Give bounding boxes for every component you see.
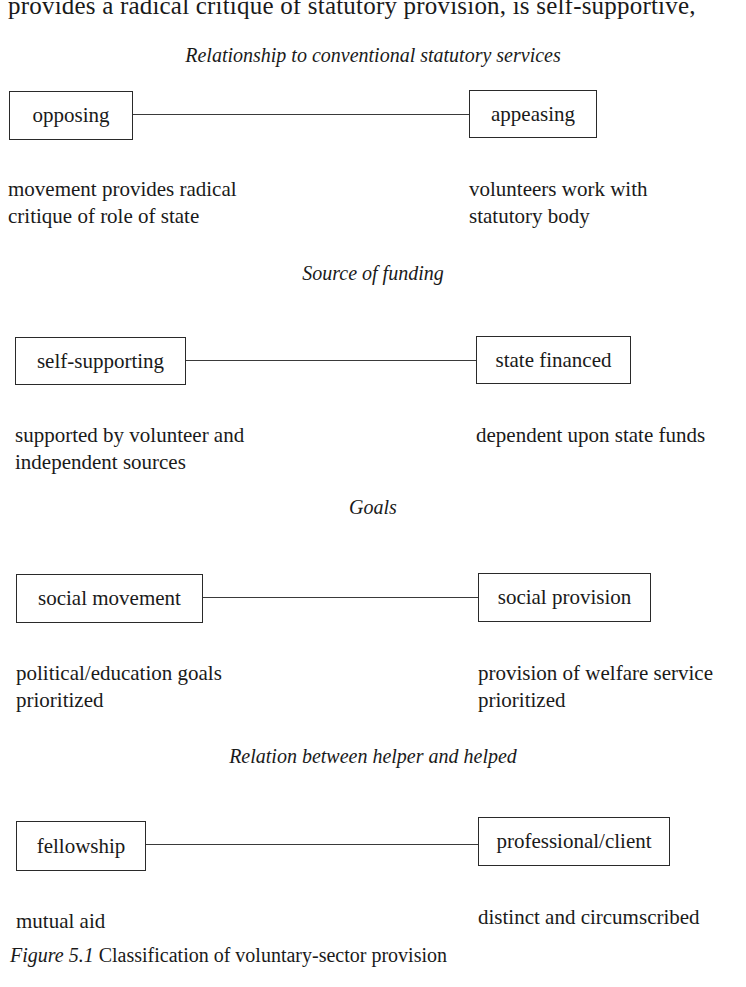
box-label: opposing xyxy=(32,103,109,128)
desc-line: provision of welfare service xyxy=(478,660,713,687)
desc-line: critique of role of state xyxy=(8,203,237,230)
desc-line: independent sources xyxy=(15,449,244,476)
caption-helper-relation: Relation between helper and helped xyxy=(0,745,746,768)
desc-left: movement provides radical critique of ro… xyxy=(8,176,237,230)
box-label: social provision xyxy=(498,585,632,610)
box-state-financed: state financed xyxy=(476,336,631,384)
desc-right: provision of welfare service prioritized xyxy=(478,660,713,714)
desc-line: volunteers work with xyxy=(469,176,647,203)
caption-goals: Goals xyxy=(0,496,746,519)
connector-line xyxy=(186,360,476,361)
desc-right: distinct and circumscribed xyxy=(478,904,700,931)
desc-line: dependent upon state funds xyxy=(476,422,705,449)
desc-line: prioritized xyxy=(16,687,222,714)
desc-line: distinct and circumscribed xyxy=(478,904,700,931)
desc-left: mutual aid xyxy=(16,908,105,935)
box-label: state financed xyxy=(495,348,611,373)
box-label: fellowship xyxy=(37,834,126,859)
box-social-provision: social provision xyxy=(478,573,651,622)
figure-title: Classification of voluntary-sector provi… xyxy=(99,944,447,966)
desc-right: dependent upon state funds xyxy=(476,422,705,449)
desc-left: political/education goals prioritized xyxy=(16,660,222,714)
box-label: appeasing xyxy=(491,102,575,127)
box-social-movement: social movement xyxy=(16,574,203,623)
desc-line: mutual aid xyxy=(16,908,105,935)
connector-line xyxy=(133,114,469,115)
connector-line xyxy=(146,844,478,845)
box-label: social movement xyxy=(38,586,181,611)
desc-line: movement provides radical xyxy=(8,176,237,203)
box-opposing: opposing xyxy=(9,91,133,140)
desc-right: volunteers work with statutory body xyxy=(469,176,647,230)
box-label: professional/client xyxy=(496,829,651,854)
box-appeasing: appeasing xyxy=(469,90,597,138)
box-label: self-supporting xyxy=(37,349,164,374)
box-fellowship: fellowship xyxy=(16,821,146,871)
desc-line: prioritized xyxy=(478,687,713,714)
caption-relationship: Relationship to conventional statutory s… xyxy=(0,44,746,67)
figure-caption: Figure 5.1 Classification of voluntary-s… xyxy=(10,944,447,967)
desc-line: statutory body xyxy=(469,203,647,230)
connector-line xyxy=(203,597,478,598)
desc-line: supported by volunteer and xyxy=(15,422,244,449)
body-text-line: provides a radical critique of statutory… xyxy=(8,0,696,20)
figure-label: Figure 5.1 xyxy=(10,944,94,966)
box-self-supporting: self-supporting xyxy=(15,337,186,385)
caption-funding: Source of funding xyxy=(0,262,746,285)
desc-left: supported by volunteer and independent s… xyxy=(15,422,244,476)
box-professional-client: professional/client xyxy=(478,817,670,866)
desc-line: political/education goals xyxy=(16,660,222,687)
